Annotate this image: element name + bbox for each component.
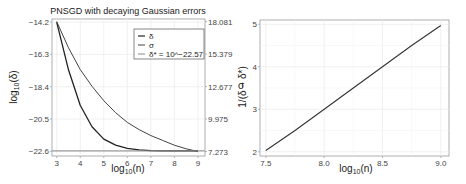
y-tick-label: −18.4: [29, 83, 50, 92]
y-tick-label: 5: [253, 20, 258, 29]
right-x-ticks: 7.58.08.59.0: [260, 156, 447, 168]
y-tick-label: −20.5: [29, 115, 50, 124]
y-tick-label: 2: [253, 148, 258, 157]
legend-label-delta: δ: [149, 32, 154, 41]
x-tick-label: 8: [172, 159, 177, 168]
left-chart-panel: 3456789 −14.2−16.3−18.4−20.5−22.6 18.081…: [8, 6, 245, 175]
legend-label-sigma: σ: [149, 41, 154, 50]
y2-tick-label: 7.273: [208, 148, 229, 157]
right-chart-panel: 7.58.08.59.0 2345 log10(n) 1/(δ − δ*): [237, 20, 449, 175]
x-tick-label: 9: [196, 159, 201, 168]
left-chart-title: PNSGD with decaying Gaussian errors: [50, 6, 206, 16]
y-tick-label: −22.6: [29, 147, 50, 156]
right-y-axis-label: 1/(δ − δ*): [237, 66, 248, 107]
right-y-ticks: 2345: [253, 20, 260, 157]
x-tick-label: 7: [149, 159, 154, 168]
x-tick-label: 7.5: [260, 159, 272, 168]
y2-tick-label: 9.975: [208, 115, 229, 124]
y2-tick-label: 15.379: [208, 50, 233, 59]
left-y-ticks: −14.2−16.3−18.4−20.5−22.6: [29, 18, 52, 156]
x-tick-label: 8.5: [377, 159, 389, 168]
right-x-axis-label: log10(n): [339, 163, 372, 175]
x-tick-label: 8.0: [319, 159, 331, 168]
x-tick-label: 5: [102, 159, 107, 168]
x-tick-label: 4: [78, 159, 83, 168]
y-tick-label: 4: [253, 63, 258, 72]
legend-label-delta-star: δ* = 10^−22.57: [149, 50, 204, 59]
y2-tick-label: 12.677: [208, 83, 233, 92]
x-tick-label: 9.0: [435, 159, 447, 168]
y-tick-label: −16.3: [29, 50, 50, 59]
left-legend: δ σ δ* = 10^−22.57: [134, 29, 204, 59]
chart-figure: 3456789 −14.2−16.3−18.4−20.5−22.6 18.081…: [0, 0, 466, 184]
x-tick-label: 3: [54, 159, 59, 168]
y2-tick-label: 18.081: [208, 18, 233, 27]
left-x-ticks: 3456789: [54, 156, 200, 168]
left-y2-ticks: 18.08115.37912.6779.9757.273: [205, 18, 233, 157]
left-y-axis-label: log10(δ): [8, 70, 20, 103]
y-tick-label: 3: [253, 105, 258, 114]
y-tick-label: −14.2: [29, 18, 50, 27]
x-tick-label: 6: [125, 159, 130, 168]
